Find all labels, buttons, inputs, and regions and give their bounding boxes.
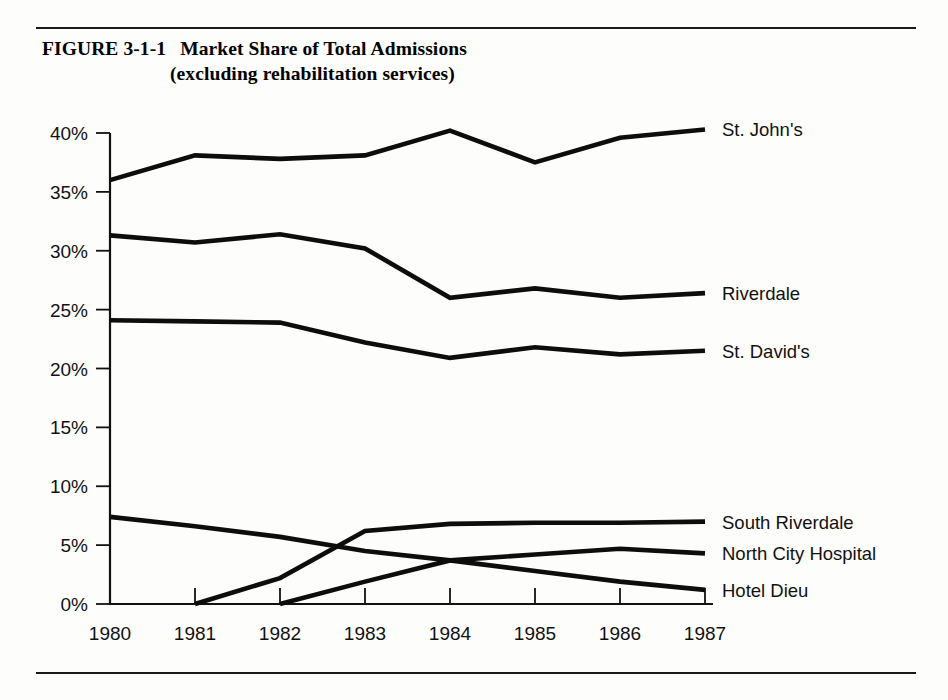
y-axis-tick-label: 30% bbox=[50, 241, 88, 262]
chart-axes bbox=[110, 133, 713, 604]
series-label: St. John's bbox=[722, 119, 803, 140]
chart-tickmarks bbox=[96, 133, 705, 604]
chart-svg: 0%5%10%15%20%25%30%35%40% 19801981198219… bbox=[0, 0, 948, 700]
line-chart: 0%5%10%15%20%25%30%35%40% 19801981198219… bbox=[0, 0, 948, 700]
series-line bbox=[110, 234, 705, 297]
series-line bbox=[280, 549, 705, 604]
y-axis-tick-label: 15% bbox=[50, 417, 88, 438]
series-line bbox=[110, 320, 705, 358]
x-axis-tick-label: 1983 bbox=[344, 623, 386, 644]
x-axis-tick-label: 1981 bbox=[174, 623, 216, 644]
series-label: North City Hospital bbox=[722, 543, 876, 564]
x-axis-tick-label: 1987 bbox=[684, 623, 726, 644]
series-label: South Riverdale bbox=[722, 512, 854, 533]
x-axis-tick-label: 1980 bbox=[89, 623, 131, 644]
y-axis-tick-label: 10% bbox=[50, 476, 88, 497]
y-axis-tick-label: 35% bbox=[50, 182, 88, 203]
figure-page: FIGURE 3-1-1Market Share of Total Admiss… bbox=[0, 0, 948, 700]
series-line bbox=[110, 130, 705, 181]
x-axis-tick-label: 1986 bbox=[599, 623, 641, 644]
y-axis-tick-label: 25% bbox=[50, 300, 88, 321]
axis-lines bbox=[110, 133, 713, 604]
series-label: Riverdale bbox=[722, 283, 800, 304]
x-axis-labels: 19801981198219831984198519861987 bbox=[89, 623, 726, 644]
chart-series-lines bbox=[110, 130, 705, 605]
y-axis-labels: 0%5%10%15%20%25%30%35%40% bbox=[50, 123, 88, 615]
series-label: St. David's bbox=[722, 341, 810, 362]
x-axis-tick-label: 1985 bbox=[514, 623, 556, 644]
y-axis-tick-label: 20% bbox=[50, 359, 88, 380]
y-axis-tick-label: 0% bbox=[61, 594, 89, 615]
y-axis-tick-label: 5% bbox=[61, 535, 89, 556]
series-label: Hotel Dieu bbox=[722, 580, 808, 601]
x-axis-tick-label: 1984 bbox=[429, 623, 472, 644]
y-axis-tick-label: 40% bbox=[50, 123, 88, 144]
series-labels: St. John'sRiverdaleSt. David'sSouth Rive… bbox=[722, 119, 876, 600]
x-axis-tick-label: 1982 bbox=[259, 623, 301, 644]
